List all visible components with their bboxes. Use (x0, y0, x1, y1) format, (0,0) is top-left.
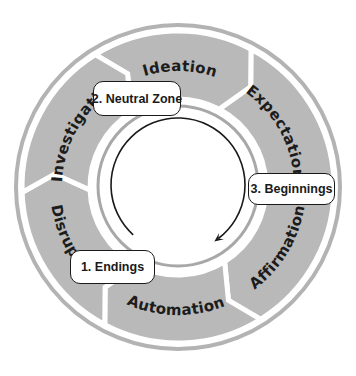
stage-endings-label: 1. Endings (81, 260, 144, 274)
stage-neutral-zone-label: 2. Neutral Zone (92, 92, 182, 106)
stage-endings: 1. Endings (70, 250, 155, 284)
stage-beginnings-label: 3. Beginnings (251, 182, 333, 196)
cycle-arrow (111, 118, 245, 242)
stage-beginnings: 3. Beginnings (248, 173, 335, 205)
inner-ring (98, 106, 258, 266)
arrow-arc (111, 118, 245, 239)
stage-neutral-zone: 2. Neutral Zone (93, 81, 181, 116)
